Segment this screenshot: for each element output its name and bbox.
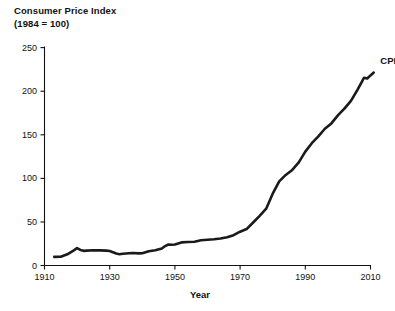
y-axis-tick-labels: 0 50 100 150 200 250 bbox=[22, 43, 37, 271]
x-tick-label-2010: 2010 bbox=[360, 272, 380, 282]
cpi-chart: Consumer Price Index (1984 = 100) 0 50 1… bbox=[0, 0, 395, 311]
x-tick-label-1910: 1910 bbox=[34, 272, 54, 282]
x-axis-tick-labels: 1910 1930 1950 1970 1990 2010 bbox=[34, 272, 380, 282]
x-tick-label-1950: 1950 bbox=[165, 272, 185, 282]
y-tick-label-50: 50 bbox=[27, 217, 37, 227]
x-tick-label-1930: 1930 bbox=[100, 272, 120, 282]
y-tick-label-200: 200 bbox=[22, 86, 37, 96]
y-tick-label-100: 100 bbox=[22, 173, 37, 183]
cpi-series-label: CPI bbox=[380, 55, 395, 66]
x-axis-ticks bbox=[45, 266, 371, 270]
x-axis-title: Year bbox=[190, 289, 210, 300]
y-axis-ticks bbox=[41, 48, 45, 266]
y-tick-label-250: 250 bbox=[22, 43, 37, 53]
cpi-data-line bbox=[54, 73, 373, 257]
x-tick-label-1970: 1970 bbox=[230, 272, 250, 282]
chart-plot-area: 0 50 100 150 200 250 1910 1930 1950 1970… bbox=[0, 0, 395, 311]
y-tick-label-150: 150 bbox=[22, 130, 37, 140]
x-tick-label-1990: 1990 bbox=[295, 272, 315, 282]
y-tick-label-0: 0 bbox=[32, 261, 37, 271]
